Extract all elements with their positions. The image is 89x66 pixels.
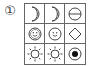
cell-r3-c2	[45, 44, 65, 64]
smiley-icon	[28, 27, 42, 41]
cell-r1-c3	[65, 4, 85, 24]
question-number: ①	[3, 4, 17, 18]
cell-r3-c3	[65, 44, 85, 64]
cell-r2-c3	[65, 24, 85, 44]
moon-icon	[28, 6, 42, 22]
cell-r1-c2	[45, 4, 65, 24]
cell-r2-c1	[25, 24, 45, 44]
circle-minus-icon	[68, 7, 82, 21]
sun-icon	[27, 46, 43, 62]
moon-icon	[48, 6, 62, 22]
cell-r2-c2	[45, 24, 65, 44]
cell-r3-c1	[25, 44, 45, 64]
smiley-icon	[48, 27, 62, 41]
circle-dot-icon	[68, 47, 82, 61]
figure-grid	[24, 3, 86, 65]
sun-icon	[47, 46, 63, 62]
diamond-icon	[68, 27, 82, 41]
cell-r1-c1	[25, 4, 45, 24]
